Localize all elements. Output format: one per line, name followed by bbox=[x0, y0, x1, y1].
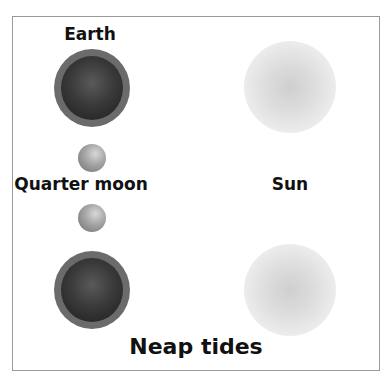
sun-label: Sun bbox=[272, 176, 308, 193]
earth-core bbox=[61, 258, 123, 322]
sun-bottom bbox=[244, 244, 336, 336]
earth-top bbox=[54, 49, 130, 127]
earth-label: Earth bbox=[64, 26, 116, 43]
quarter-moon-label: Quarter moon bbox=[14, 176, 148, 193]
quarter-moon-top bbox=[78, 144, 106, 172]
earth-core bbox=[61, 56, 123, 120]
earth-bottom bbox=[54, 251, 130, 329]
diagram-title: Neap tides bbox=[129, 336, 262, 358]
quarter-moon-bottom bbox=[78, 204, 106, 232]
sun-top bbox=[244, 41, 336, 133]
